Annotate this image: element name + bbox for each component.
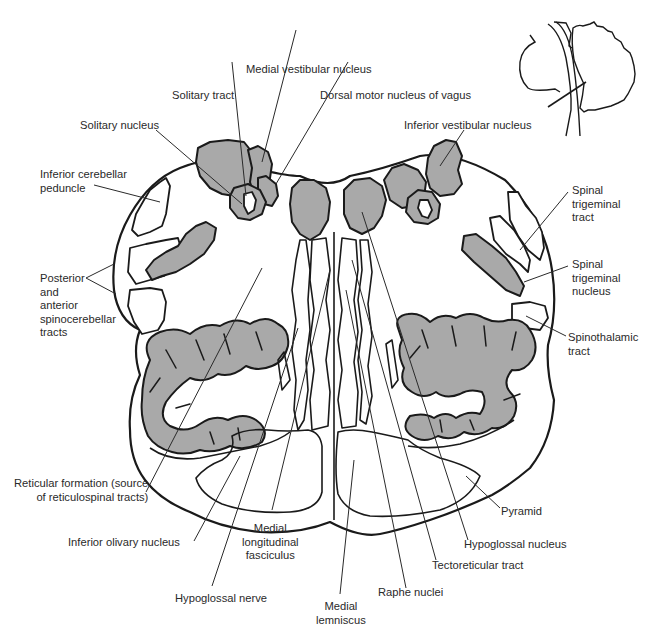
label-inferior-olivary-nucleus: Inferior olivary nucleus <box>68 536 180 550</box>
label-inferior-vestibular-nucleus: Inferior vestibular nucleus <box>404 119 531 133</box>
label-hypoglossal-nerve: Hypoglossal nerve <box>175 592 267 606</box>
label-spinal-trigeminal-tract: Spinal trigeminal tract <box>572 184 621 225</box>
inset-section-level-line <box>548 82 586 107</box>
label-reticular-formation: Reticular formation (source of reticulos… <box>14 477 148 504</box>
label-raphe-nuclei: Raphe nuclei <box>378 586 443 600</box>
medulla-diagram: Medial vestibular nucleus Solitary tract… <box>0 0 652 633</box>
label-inferior-cerebellar-peduncle: Inferior cerebellar peduncle <box>40 168 127 195</box>
orientation-inset <box>520 22 635 136</box>
label-spinal-trigeminal-nucleus: Spinal trigeminal nucleus <box>572 258 621 299</box>
label-solitary-nucleus: Solitary nucleus <box>80 119 159 133</box>
label-medial-longitudinal-fasciculus: Medial longitudinal fasciculus <box>242 522 299 563</box>
inset-pons-outline <box>520 35 560 92</box>
inset-fourth-ventricle <box>554 22 572 48</box>
inferior-vestibular-nucleus-shape <box>426 140 462 196</box>
leader-dorsal-motor-nucleus-vagus <box>276 62 348 184</box>
label-pyramid: Pyramid <box>501 505 542 519</box>
label-solitary-tract: Solitary tract <box>172 89 234 103</box>
inset-cerebellum <box>572 22 635 112</box>
label-medial-lemniscus: Medial lemniscus <box>316 600 366 627</box>
label-tectoreticular-tract: Tectoreticular tract <box>432 559 523 573</box>
label-hypoglossal-nucleus: Hypoglossal nucleus <box>464 538 567 552</box>
label-spinothalamic-tract: Spinothalamic tract <box>568 331 638 358</box>
label-dorsal-motor-nucleus-of-vagus: Dorsal motor nucleus of vagus <box>320 89 471 103</box>
label-posterior-anterior-spinocerebellar-tracts: Posterior and anterior spinocerebellar t… <box>40 272 116 340</box>
leader-medial-vestibular-nucleus <box>262 30 296 162</box>
label-medial-vestibular-nucleus: Medial vestibular nucleus <box>246 63 372 77</box>
